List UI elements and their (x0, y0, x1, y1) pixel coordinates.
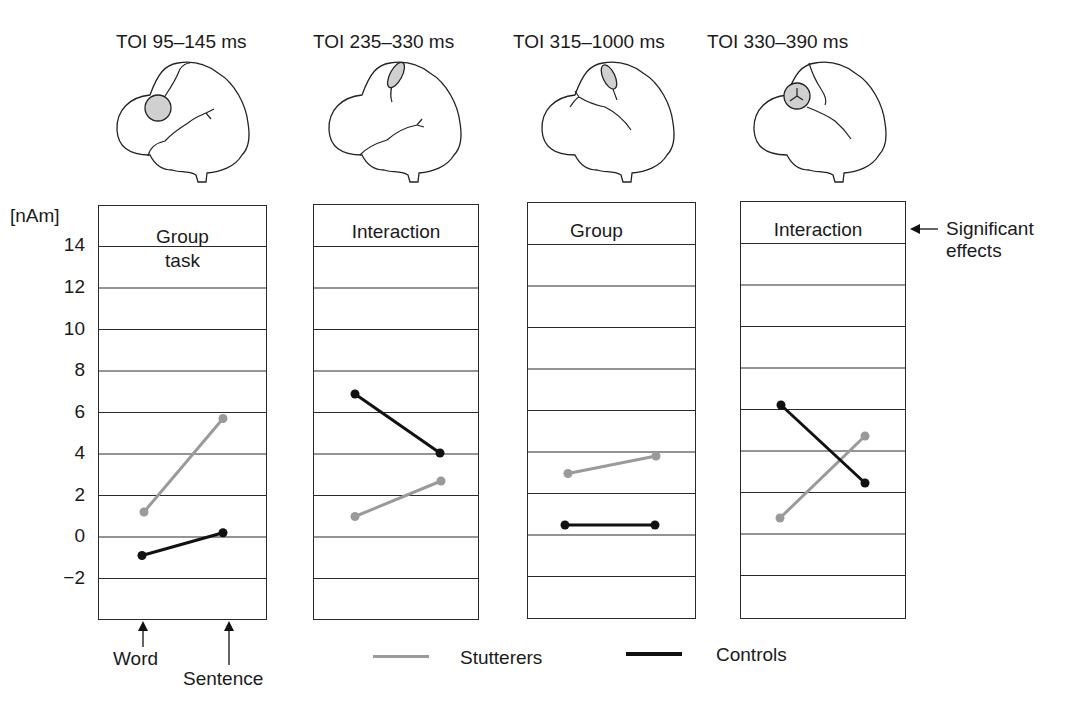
brain-icon-4 (747, 55, 892, 185)
arrow-left-icon (910, 222, 940, 236)
y-tick-8: 8 (25, 359, 85, 381)
y-tick-14: 14 (25, 234, 85, 256)
series-controls (560, 520, 659, 529)
brain-icon-1 (110, 55, 255, 185)
series-stutterers (139, 414, 227, 517)
effect-label-4: Interaction (741, 219, 905, 241)
toi-title-2: TOI 235–330 ms (313, 31, 454, 53)
chart-panel-1: Group task (98, 205, 267, 620)
y-tick-6: 6 (25, 401, 85, 423)
toi-title-4: TOI 330–390 ms (707, 31, 848, 53)
arrow-up-sentence-icon (222, 621, 236, 667)
legend-label-stutterers: Stutterers (460, 647, 542, 669)
series-stutterers (563, 451, 660, 478)
legend-swatch-controls (626, 652, 682, 656)
toi-title-3: TOI 315–1000 ms (513, 31, 665, 53)
series-controls (137, 528, 227, 560)
y-tick-2: 2 (25, 484, 85, 506)
effect-label-1a: Group (99, 226, 266, 248)
y-tick-4: 4 (25, 442, 85, 464)
toi-title-1: TOI 95–145 ms (116, 31, 247, 53)
y-tick-10: 10 (25, 318, 85, 340)
significant-effects-text: Significant effects (946, 218, 1046, 262)
y-axis-unit: [nAm] (10, 205, 60, 227)
y-tick-0: 0 (25, 525, 85, 547)
x-label-sentence: Sentence (183, 668, 263, 690)
y-tick-neg2: −2 (25, 567, 85, 589)
panel-2-plot (313, 204, 479, 620)
x-label-word: Word (113, 648, 158, 670)
chart-panel-3: Group (527, 202, 696, 619)
effect-label-3: Group (528, 220, 695, 242)
effect-label-2: Interaction (314, 221, 478, 243)
brain-icon-2 (322, 55, 467, 185)
legend-label-controls: Controls (716, 644, 787, 666)
brain-icon-3 (535, 55, 680, 185)
effect-label-1b: task (99, 250, 266, 272)
arrow-up-word-icon (136, 621, 150, 647)
series-stutterers (350, 476, 445, 521)
y-tick-12: 12 (25, 276, 85, 298)
legend-swatch-stutterers (373, 655, 429, 658)
chart-panel-2: Interaction (313, 204, 479, 620)
significant-effects-label: Significant effects (946, 218, 1046, 262)
chart-panel-4: Interaction (740, 201, 906, 619)
panel-3-plot (527, 202, 696, 619)
panel-4-plot (740, 201, 906, 619)
series-controls (350, 389, 444, 457)
